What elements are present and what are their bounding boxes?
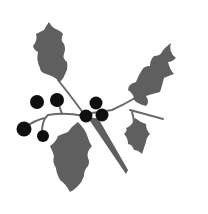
leaf-diagonal <box>88 118 128 174</box>
berry-1 <box>30 95 44 109</box>
berry-4 <box>37 130 49 142</box>
berry-2 <box>50 93 64 107</box>
berry-5 <box>80 110 93 123</box>
stem-right-lower <box>130 110 163 119</box>
leaf-upper-right <box>128 43 176 106</box>
leaf-upper-left <box>33 22 67 82</box>
holly-illustration: Holly sprig clip art <box>0 0 208 214</box>
berry-7 <box>96 109 109 122</box>
leaf-lower-left <box>50 122 92 192</box>
leaf-lower-right <box>124 118 150 154</box>
berry-3 <box>17 122 32 137</box>
holly-svg <box>0 0 208 214</box>
berry-6 <box>90 97 103 110</box>
